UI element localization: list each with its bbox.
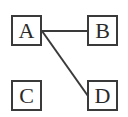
node-d: D <box>87 80 118 111</box>
node-a: A <box>11 15 42 46</box>
node-c-label: C <box>19 85 34 107</box>
diagram-canvas: A B C D <box>0 0 128 117</box>
node-b-label: B <box>95 20 110 42</box>
node-c: C <box>11 80 42 111</box>
node-a-label: A <box>19 20 35 42</box>
node-d-label: D <box>95 85 111 107</box>
edge-a-d <box>42 31 88 96</box>
node-b: B <box>87 15 118 46</box>
